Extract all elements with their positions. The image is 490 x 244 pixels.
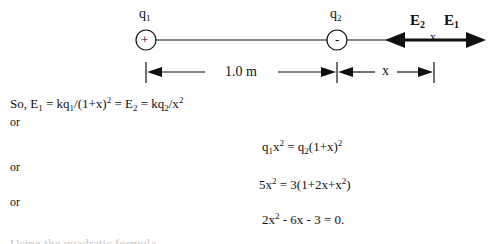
equation-line3: 5x2 = 3(1+2x+x2) bbox=[259, 177, 351, 192]
field-point-label: x bbox=[430, 30, 436, 45]
dim-arrow-right2-icon bbox=[418, 67, 433, 77]
charge-q1-label: q1 bbox=[139, 6, 151, 21]
field-e1-label: E1 bbox=[444, 13, 459, 28]
or-label-2: or bbox=[10, 160, 20, 175]
equation-line2: q1x2 = q2(1+x)2 bbox=[262, 139, 342, 154]
e2-arrowhead-icon bbox=[385, 32, 405, 48]
distance-label: x bbox=[382, 63, 389, 78]
dim-arrow-right-icon bbox=[321, 67, 336, 77]
or-label-1: or bbox=[10, 115, 20, 130]
charge-q1-sign: + bbox=[141, 32, 148, 47]
equation-line1: So, E1 = kq1/(1+x)2 = E2 = kq2/x2 bbox=[10, 96, 183, 111]
truncated-text-line: Using the quadratic formula... bbox=[10, 236, 166, 244]
equation-line4: 2x2 - 6x - 3 = 0. bbox=[262, 212, 344, 227]
dim-arrow-left-icon bbox=[147, 67, 162, 77]
e1-arrowhead-icon bbox=[466, 32, 486, 48]
separation-label: 1.0 m bbox=[225, 64, 257, 79]
charge-q2-sign: - bbox=[335, 32, 339, 47]
charge-q2-label: q2 bbox=[330, 6, 342, 21]
dim-arrow-left2-icon bbox=[338, 67, 353, 77]
field-e2-label: E2 bbox=[410, 13, 425, 28]
or-label-3: or bbox=[10, 195, 20, 210]
